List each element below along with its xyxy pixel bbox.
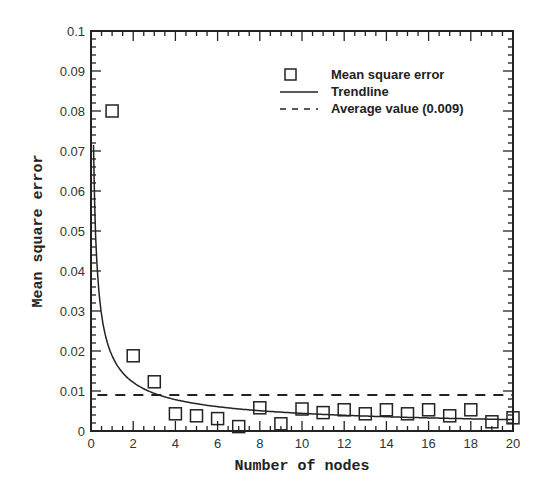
y-tick-label: 0.04 — [60, 264, 85, 279]
y-tick-label: 0.07 — [60, 144, 85, 159]
x-tick-label: 4 — [172, 436, 179, 451]
x-axis-tick-labels: 02468101214161820 — [87, 436, 520, 451]
x-tick-label: 14 — [379, 436, 393, 451]
x-tick-label: 10 — [295, 436, 309, 451]
x-tick-label: 16 — [421, 436, 435, 451]
y-tick-label: 0.03 — [60, 304, 85, 319]
mse-chart: 00.010.020.030.040.050.060.070.080.090.1… — [0, 0, 547, 486]
plot-frame — [91, 31, 513, 431]
data-point-square — [127, 350, 139, 362]
y-tick-label: 0.09 — [60, 64, 85, 79]
x-tick-label: 8 — [256, 436, 263, 451]
legend-label-average: Average value (0.009) — [331, 101, 463, 116]
data-point-square — [359, 408, 371, 420]
y-tick-label: 0.08 — [60, 104, 85, 119]
data-point-square — [444, 410, 456, 422]
data-point-square — [338, 404, 350, 416]
x-tick-label: 6 — [214, 436, 221, 451]
x-tick-label: 18 — [464, 436, 478, 451]
x-tick-label: 0 — [87, 436, 94, 451]
legend-label-trendline: Trendline — [331, 84, 389, 99]
legend: Mean square error Trendline Average valu… — [280, 67, 463, 116]
data-point-square — [106, 105, 118, 117]
data-point-square — [423, 404, 435, 416]
y-axis-tick-labels: 00.010.020.030.040.050.060.070.080.090.1 — [60, 24, 85, 439]
x-tick-label: 12 — [337, 436, 351, 451]
data-point-square — [380, 404, 392, 416]
x-tick-label: 2 — [130, 436, 137, 451]
y-tick-label: 0.02 — [60, 344, 85, 359]
y-tick-label: 0.05 — [60, 224, 85, 239]
data-point-square — [169, 408, 181, 420]
data-point-square — [254, 402, 266, 414]
data-point-square — [148, 376, 160, 388]
y-axis-title: Mean square error — [30, 154, 47, 307]
axis-ticks — [91, 31, 513, 431]
y-tick-label: 0.1 — [67, 24, 85, 39]
x-tick-label: 20 — [506, 436, 520, 451]
legend-label-mse: Mean square error — [331, 67, 444, 82]
data-point-square — [191, 410, 203, 422]
data-point-square — [317, 407, 329, 419]
legend-square-icon — [285, 69, 296, 80]
y-tick-label: 0.01 — [60, 384, 85, 399]
y-tick-label: 0.06 — [60, 184, 85, 199]
trendline — [94, 145, 513, 420]
data-point-square — [465, 404, 477, 416]
x-axis-title: Number of nodes — [234, 458, 369, 475]
data-markers — [106, 105, 519, 433]
y-tick-label: 0 — [78, 424, 85, 439]
